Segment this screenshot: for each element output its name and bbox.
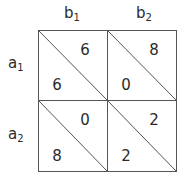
diagonal-a1-b2 — [108, 31, 177, 101]
cell-a2-b1-lower: 8 — [50, 149, 64, 164]
cell-a2-b2-lower: 2 — [119, 149, 133, 164]
row-header-subscript: 2 — [17, 133, 23, 144]
cell-a1-b2-upper: 8 — [147, 43, 161, 58]
column-header-base: b — [136, 4, 146, 22]
cell-a1-b1-upper: 6 — [78, 43, 92, 58]
row-header-base: a — [8, 125, 17, 143]
cell-a2-b2-upper: 2 — [147, 113, 161, 128]
diagonal-a2-b1 — [39, 101, 108, 172]
column-header-subscript: 1 — [74, 12, 80, 23]
row-header-a2: a2 — [8, 127, 24, 144]
column-header-b2: b2 — [136, 6, 152, 23]
diagonal-a1-b1 — [39, 31, 108, 101]
cell-a1-b2-lower: 0 — [119, 78, 133, 93]
payoff-grid — [0, 0, 186, 179]
diagonal-a2-b2 — [108, 101, 177, 172]
row-header-subscript: 1 — [17, 62, 23, 73]
column-header-b1: b1 — [64, 6, 80, 23]
row-header-base: a — [8, 54, 17, 72]
column-header-base: b — [64, 4, 74, 22]
cell-a2-b1-upper: 0 — [78, 113, 92, 128]
row-header-a1: a1 — [8, 56, 24, 73]
column-header-subscript: 2 — [146, 12, 152, 23]
cell-a1-b1-lower: 6 — [50, 78, 64, 93]
